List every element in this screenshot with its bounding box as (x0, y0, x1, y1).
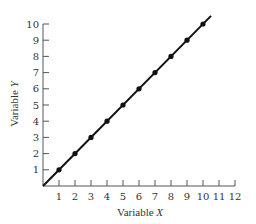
data-point (120, 102, 125, 107)
data-point (200, 21, 205, 26)
x-tick-label: 11 (213, 191, 226, 202)
y-tick-label: 5 (33, 100, 39, 111)
y-tick-label: 8 (33, 51, 39, 62)
x-tick-label: 10 (197, 191, 210, 202)
data-point (136, 86, 141, 91)
x-axis-label: Variable X (117, 206, 164, 218)
y-axis-label: Variable Y (8, 79, 20, 126)
y-tick-label: 6 (33, 83, 39, 94)
data-point (152, 70, 157, 75)
x-tick-label: 1 (56, 191, 62, 202)
x-tick-label: 3 (88, 191, 94, 202)
y-tick-label: 3 (33, 132, 39, 143)
x-tick-label: 8 (168, 191, 174, 202)
y-tick-label: 9 (33, 35, 39, 46)
x-tick-label: 5 (120, 191, 126, 202)
x-tick-label: 4 (104, 191, 110, 202)
x-tick-label: 6 (136, 191, 142, 202)
data-point (104, 119, 109, 124)
y-tick-label: 1 (33, 164, 39, 175)
data-point (168, 54, 173, 59)
data-point (88, 135, 93, 140)
data-point (56, 167, 61, 172)
data-point (184, 38, 189, 43)
y-tick-label: 2 (33, 148, 39, 159)
x-tick-label: 9 (184, 191, 190, 202)
x-tick-label: 2 (72, 191, 78, 202)
y-tick-label: 7 (33, 67, 39, 78)
x-tick-label: 7 (152, 191, 158, 202)
data-point (72, 151, 77, 156)
data-series (43, 16, 211, 186)
y-tick-label: 4 (33, 116, 39, 127)
ticks: 12345678910111212345678910 (26, 19, 241, 203)
y-tick-label: 10 (26, 19, 39, 30)
x-tick-label: 12 (229, 191, 242, 202)
axes (43, 24, 235, 186)
scatter-line-chart: 12345678910111212345678910 Variable X Va… (0, 0, 256, 224)
